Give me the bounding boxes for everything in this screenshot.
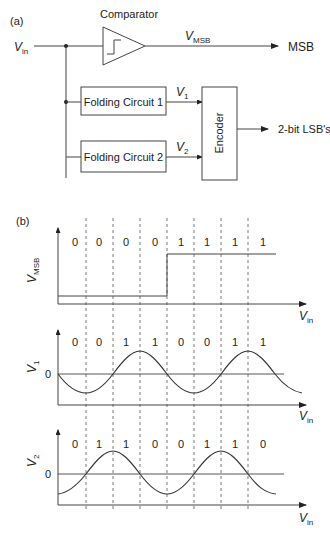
panel-b-waveforms: (b) VMSB 0 0 0 0 1 1 1 1 [16, 215, 313, 527]
v2-y-label: V2 [25, 454, 41, 467]
svg-text:0: 0 [178, 438, 184, 450]
adc-folding-diagram: (a) Vin Comparator VMSB MSB Folding Circ… [0, 0, 330, 535]
v1-bit-labels: 0 0 1 1 0 0 1 1 [72, 336, 266, 348]
svg-text:1: 1 [123, 438, 129, 450]
vin-label: Vin [14, 40, 28, 56]
svg-text:1: 1 [232, 438, 238, 450]
svg-text:1: 1 [232, 336, 238, 348]
v1-plot: 0 V1 0 0 1 1 0 0 1 1 Vin [25, 330, 313, 425]
vmsb-label: VMSB [185, 29, 210, 45]
svg-text:1: 1 [96, 438, 102, 450]
v1-waveform [58, 351, 302, 393]
v2-x-label: Vin [299, 511, 313, 527]
v2-label: V2 [176, 140, 189, 156]
svg-text:0: 0 [152, 438, 158, 450]
msb-output-label: MSB [288, 40, 314, 54]
v1-label: V1 [176, 85, 189, 101]
v2-zero-label: 0 [45, 468, 51, 480]
panel-a-block-diagram: (a) Vin Comparator VMSB MSB Folding Circ… [10, 8, 330, 180]
folding-circuit-2-label: Folding Circuit 2 [84, 151, 163, 163]
svg-text:1: 1 [204, 236, 210, 248]
lsb-output-label: 2-bit LSB's [278, 123, 330, 135]
svg-text:0: 0 [123, 236, 129, 248]
panel-b-label: (b) [16, 215, 29, 227]
svg-text:1: 1 [204, 438, 210, 450]
svg-text:1: 1 [260, 336, 266, 348]
vmsb-y-label: VMSB [25, 258, 41, 283]
comparator-triangle [103, 27, 145, 65]
v1-zero-label: 0 [45, 368, 51, 380]
v1-x-label: Vin [299, 409, 313, 425]
svg-text:0: 0 [72, 438, 78, 450]
svg-text:1: 1 [232, 236, 238, 248]
svg-text:1: 1 [178, 236, 184, 248]
svg-text:0: 0 [96, 336, 102, 348]
svg-text:0: 0 [72, 236, 78, 248]
svg-text:0: 0 [72, 336, 78, 348]
svg-text:0: 0 [204, 336, 210, 348]
svg-text:1: 1 [123, 336, 129, 348]
vmsb-bit-labels: 0 0 0 0 1 1 1 1 [72, 236, 266, 248]
svg-text:1: 1 [152, 336, 158, 348]
svg-text:0: 0 [260, 438, 266, 450]
comparator-label: Comparator [100, 8, 158, 20]
vmsb-waveform [58, 254, 276, 296]
v1-y-label: V1 [25, 360, 41, 373]
v2-bit-labels: 0 1 1 0 0 1 1 0 [72, 438, 266, 450]
svg-text:0: 0 [178, 336, 184, 348]
vmsb-x-label: Vin [299, 309, 313, 325]
encoder-label: Encoder [213, 112, 225, 153]
svg-text:0: 0 [96, 236, 102, 248]
v2-plot: 0 V2 0 1 1 0 0 1 1 0 Vin [25, 430, 313, 527]
folding-circuit-1-label: Folding Circuit 1 [84, 96, 163, 108]
vmsb-plot: VMSB 0 0 0 0 1 1 1 1 Vin [25, 228, 313, 325]
panel-a-label: (a) [10, 15, 23, 27]
svg-text:0: 0 [152, 236, 158, 248]
svg-text:1: 1 [260, 236, 266, 248]
